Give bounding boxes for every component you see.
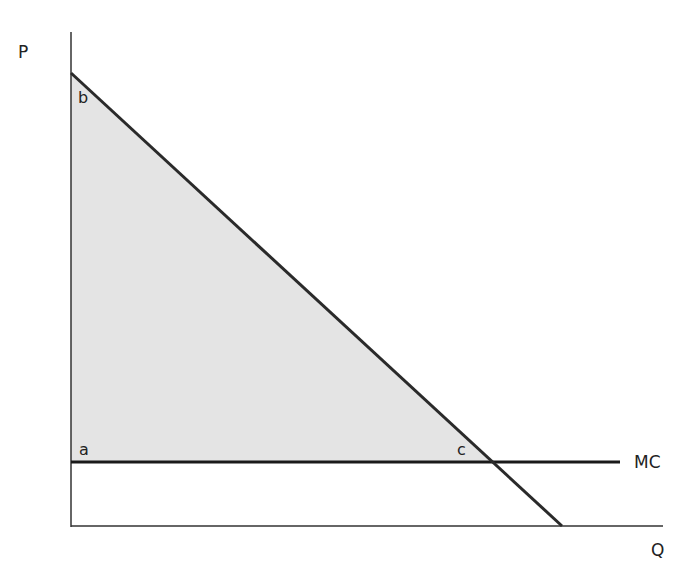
x-axis-label: Q (651, 542, 664, 559)
point-b-label: b (78, 90, 88, 106)
point-a-label: a (79, 442, 89, 458)
mc-label: MC (634, 454, 661, 471)
y-axis-label: P (18, 44, 28, 61)
surplus-diagram (0, 0, 700, 586)
point-c-label: c (457, 442, 466, 458)
